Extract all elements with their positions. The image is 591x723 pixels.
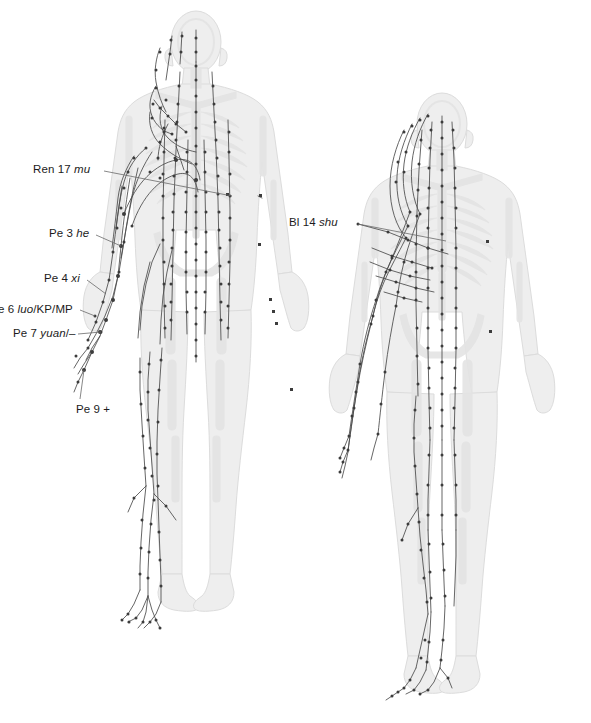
label-pe-7-yuan: Pe 7 yuan/– [13, 327, 76, 339]
posterior-body-view [329, 93, 555, 700]
label-pe-3-italic: he [76, 227, 89, 239]
label-pe-4-prefix: Pe 4 [44, 272, 71, 284]
label-pe-6-luo-kp-mp: e 6 luo/KP/MP [0, 303, 73, 315]
label-ren-17-mu: Ren 17 mu [33, 163, 90, 175]
anterior-body-view [74, 11, 309, 630]
label-pe-4-italic: xi [71, 272, 80, 284]
label-pe-6-italic: luo [18, 303, 34, 315]
label-bl-14-prefix: Bl 14 [289, 216, 319, 228]
label-pe-7-prefix: Pe 7 [13, 327, 40, 339]
anatomy-illustration [0, 0, 591, 723]
label-pe-3-prefix: Pe 3 [49, 227, 76, 239]
label-bl-14-shu: Bl 14 shu [289, 216, 338, 228]
label-pe-7-italic: yuan [40, 327, 65, 339]
label-ren-17-italic: mu [74, 163, 90, 175]
label-pe-4-xi: Pe 4 xi [44, 272, 80, 284]
label-pe-9-prefix: Pe 9 + [76, 403, 110, 415]
label-pe-7-suffix: /– [66, 327, 76, 339]
label-bl-14-italic: shu [319, 216, 338, 228]
meridian-chart-page: Ren 17 mu Pe 3 he Pe 4 xi e 6 luo/KP/MP … [0, 0, 591, 723]
label-pe-3-he: Pe 3 he [49, 227, 89, 239]
label-pe-6-suffix: /KP/MP [33, 303, 73, 315]
label-pe-9-plus: Pe 9 + [76, 403, 110, 415]
label-pe-6-prefix: e 6 [0, 303, 18, 315]
leader-pe-7 [78, 332, 101, 334]
cropped-header-strip [0, 0, 591, 9]
label-ren-17-prefix: Ren 17 [33, 163, 74, 175]
